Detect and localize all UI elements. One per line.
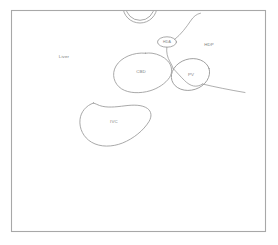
anatomical-line-diagram: Liver CBD IVC PV HDA HDP [0, 0, 278, 245]
page-margin-artifact [0, 236, 278, 244]
diagram-frame [12, 11, 266, 232]
label-cbd: CBD [136, 69, 146, 74]
label-liver: Liver [59, 54, 70, 59]
label-hda: HDA [163, 40, 171, 44]
label-ivc: IVC [110, 119, 118, 124]
label-pv: PV [188, 72, 194, 77]
label-hdp: HDP [204, 42, 214, 47]
figure-root: Liver CBD IVC PV HDA HDP [0, 0, 278, 245]
